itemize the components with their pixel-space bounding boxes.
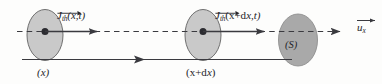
j-subscript-1: th xyxy=(62,15,67,23)
pos-x-plus-dx-open: (x+d xyxy=(186,66,207,78)
label-surface-s: (S) xyxy=(285,40,297,51)
label-current-density-at-x-plus-dx: Jth (x+dx,t) xyxy=(215,10,261,23)
label-position-x-plus-dx: (x+dx) xyxy=(186,67,215,78)
label-current-density-at-x: Jth (x,t) xyxy=(57,10,85,23)
vector-symbol-jth-2: Jth xyxy=(215,10,225,23)
label-unit-vector-x: ux xyxy=(357,22,366,35)
pos-x-plus-dx-close: ) xyxy=(212,66,216,78)
vector-symbol-jth-1: Jth xyxy=(57,10,67,23)
j-subscript-2: th xyxy=(220,15,225,23)
j-arguments-2-close: ,t) xyxy=(251,9,260,21)
j-arguments-1: (x,t) xyxy=(67,9,85,21)
label-position-x: (x) xyxy=(37,67,49,78)
u-subscript: x xyxy=(363,27,366,35)
j-arguments-2-open: (x+d xyxy=(225,9,246,21)
thermal-flux-diagram: Jth (x,t) Jth (x+dx,t) ux (S) (x) (x+dx) xyxy=(0,0,382,84)
